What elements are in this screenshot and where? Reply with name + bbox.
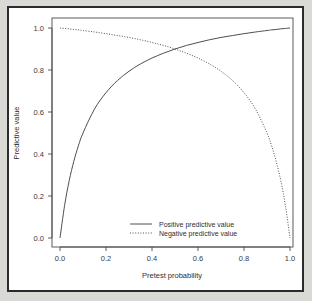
y-axis: 0.00.20.40.60.81.0 Predictive value	[12, 24, 52, 243]
y-axis-tick-labels: 0.00.20.40.60.81.0	[34, 24, 44, 243]
y-axis-tick-label: 0.0	[34, 234, 44, 243]
x-axis-tick-labels: 0.00.20.40.60.81.0	[55, 254, 295, 263]
y-axis-tick-label: 0.4	[34, 150, 44, 159]
x-axis: 0.00.20.40.60.81.0 Pretest probability	[55, 247, 295, 280]
x-axis-tick-label: 0.8	[239, 254, 249, 263]
y-axis-title: Predictive value	[12, 107, 21, 160]
x-axis-tick-label: 0.6	[193, 254, 203, 263]
x-axis-tick-label: 0.2	[101, 254, 111, 263]
x-axis-tick-label: 1.0	[285, 254, 295, 263]
x-axis-ticks	[60, 247, 290, 251]
x-axis-tick-label: 0.0	[55, 254, 65, 263]
y-axis-tick-label: 0.8	[34, 66, 44, 75]
y-axis-tick-label: 0.6	[34, 108, 44, 117]
x-axis-tick-label: 0.4	[147, 254, 157, 263]
plot-panel	[52, 18, 293, 247]
predictive-value-chart: 0.00.20.40.60.81.0 Pretest probability 0…	[0, 0, 312, 301]
chart-screenshot: 0.00.20.40.60.81.0 Pretest probability 0…	[0, 0, 312, 301]
x-axis-title: Pretest probability	[142, 271, 202, 280]
y-axis-tick-label: 1.0	[34, 24, 44, 33]
y-axis-tick-label: 0.2	[34, 192, 44, 201]
y-axis-ticks	[48, 28, 52, 238]
legend-label-negative: Negative predictive value	[159, 230, 237, 238]
legend-label-positive: Positive predictive value	[159, 221, 234, 229]
